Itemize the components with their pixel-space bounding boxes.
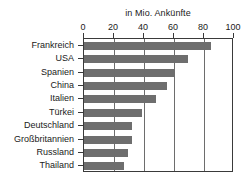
y-category-label: Italien: [50, 93, 74, 103]
gridline: [204, 39, 205, 171]
bar: [84, 136, 132, 144]
x-tick-label: 80: [198, 22, 208, 32]
y-category-label: Thailand: [39, 160, 74, 170]
y-category-label: Russland: [36, 147, 74, 157]
x-tick-mark: [113, 33, 114, 38]
y-category-label: Großbritannien: [14, 134, 74, 144]
gridline: [144, 39, 145, 171]
x-tick-mark: [83, 33, 84, 38]
bar: [84, 162, 124, 170]
bar: [84, 55, 188, 63]
y-axis-category-labels: FrankreichUSASpanienChinaItalienTürkeiDe…: [0, 38, 80, 172]
x-tick-mark: [203, 33, 204, 38]
x-tick-label: 100: [225, 22, 240, 32]
y-category-label: Spanien: [41, 67, 74, 77]
y-category-label: Deutschland: [24, 120, 74, 130]
x-tick-label: 40: [138, 22, 148, 32]
bar: [84, 95, 156, 103]
y-category-label: USA: [55, 53, 74, 63]
bar: [84, 42, 211, 50]
x-axis-tick-labels: 020406080100: [0, 22, 249, 34]
bar: [84, 109, 142, 117]
gridline: [174, 39, 175, 171]
x-tick-label: 60: [168, 22, 178, 32]
bar: [84, 82, 167, 90]
bar: [84, 122, 132, 130]
y-category-label: Türkei: [49, 107, 74, 117]
x-tick-label: 0: [80, 22, 85, 32]
x-tick-mark: [173, 33, 174, 38]
plot-area: [83, 38, 233, 172]
gridline: [114, 39, 115, 171]
chart-axis-title: in Mio. Ankünfte: [83, 8, 233, 18]
y-category-label: China: [50, 80, 74, 90]
bar-chart: in Mio. Ankünfte 020406080100 Frankreich…: [0, 0, 249, 181]
bars-layer: [84, 39, 232, 171]
bar: [84, 69, 175, 77]
x-tick-mark: [143, 33, 144, 38]
bar: [84, 149, 128, 157]
y-category-label: Frankreich: [31, 40, 74, 50]
x-tick-label: 20: [108, 22, 118, 32]
x-tick-mark: [233, 33, 234, 38]
